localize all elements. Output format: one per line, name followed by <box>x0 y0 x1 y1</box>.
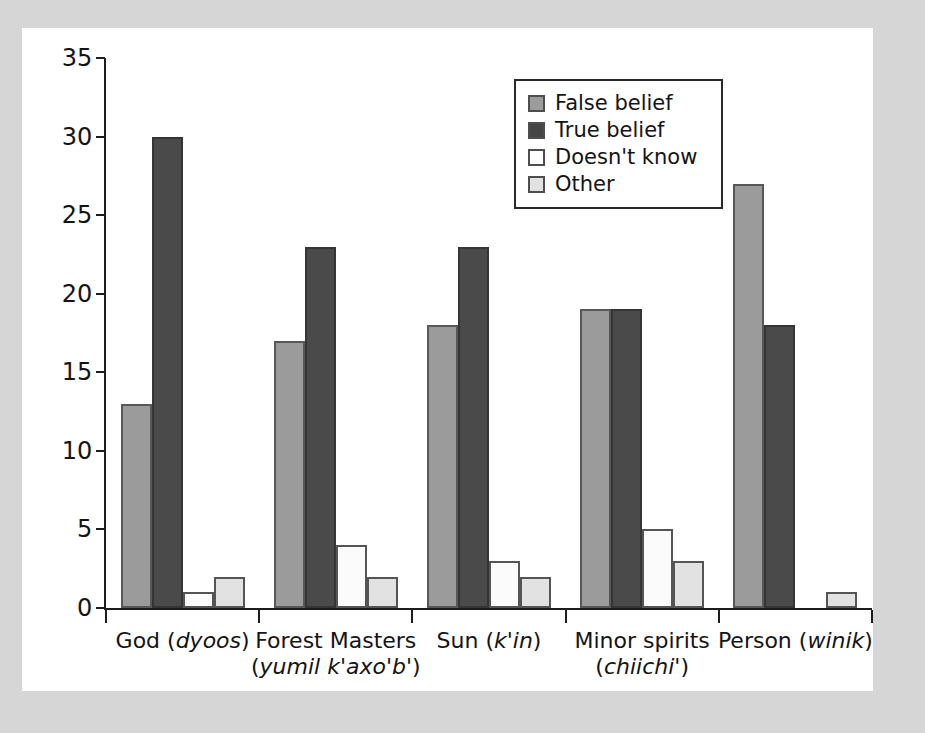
y-tick-label: 10 <box>40 439 92 463</box>
figure-frame: 05101520253035 God (dyoos)Forest Masters… <box>0 0 925 733</box>
category-label-native: chiichi' <box>604 654 680 679</box>
bar-other-1 <box>367 577 398 608</box>
bar-dk-2 <box>489 561 520 608</box>
bar-other-3 <box>673 561 704 608</box>
bar-false-3 <box>580 309 611 608</box>
x-tick-mark <box>871 610 873 623</box>
bar-dk-0 <box>183 592 214 608</box>
y-tick-mark <box>96 136 105 138</box>
y-tick-label: 25 <box>40 203 92 227</box>
bar-true-0 <box>152 137 183 608</box>
legend-label: True belief <box>555 120 665 141</box>
legend-swatch-icon <box>528 149 545 166</box>
bar-other-4 <box>826 592 857 608</box>
y-tick-mark <box>96 57 105 59</box>
bar-dk-1 <box>336 545 367 608</box>
category-label-native: k'in <box>494 628 533 653</box>
chart-legend: False beliefTrue beliefDoesn't knowOther <box>514 79 723 209</box>
y-tick-label: 20 <box>40 282 92 306</box>
category-label-line2: (yumil k'axo'b') <box>236 654 435 680</box>
y-tick-label: 35 <box>40 46 92 70</box>
x-tick-mark <box>105 610 107 623</box>
y-tick-mark <box>96 450 105 452</box>
y-tick-label: 0 <box>40 596 92 620</box>
category-label-native: dyoos <box>176 628 241 653</box>
legend-item-true[interactable]: True belief <box>528 117 709 144</box>
y-tick-mark <box>96 607 105 609</box>
legend-swatch-icon <box>528 95 545 112</box>
bar-false-2 <box>427 325 458 608</box>
legend-item-dk[interactable]: Doesn't know <box>528 144 709 171</box>
bar-other-0 <box>214 577 245 608</box>
y-tick-mark <box>96 214 105 216</box>
y-tick-mark <box>96 528 105 530</box>
x-tick-mark <box>258 610 260 623</box>
legend-label: False belief <box>555 93 673 114</box>
bar-true-1 <box>305 247 336 608</box>
y-tick-mark <box>96 293 105 295</box>
category-label-line1: Person (winik) <box>696 628 895 654</box>
bar-true-3 <box>611 309 642 608</box>
x-tick-mark <box>565 610 567 623</box>
legend-label: Other <box>555 174 615 195</box>
category-label-native: winik <box>807 628 864 653</box>
y-tick-label: 15 <box>40 360 92 384</box>
category-label-4: Person (winik) <box>696 628 895 654</box>
legend-swatch-icon <box>528 122 545 139</box>
y-tick-label: 30 <box>40 125 92 149</box>
legend-label: Doesn't know <box>555 147 697 168</box>
legend-item-false[interactable]: False belief <box>528 90 709 117</box>
grouped-bar-chart: 05101520253035 God (dyoos)Forest Masters… <box>0 0 925 733</box>
legend-item-other[interactable]: Other <box>528 171 709 198</box>
y-tick-mark <box>96 371 105 373</box>
bar-true-2 <box>458 247 489 608</box>
bar-dk-3 <box>642 529 673 608</box>
bar-other-2 <box>520 577 551 608</box>
bar-true-4 <box>764 325 795 608</box>
y-tick-label: 5 <box>40 517 92 541</box>
x-tick-mark <box>411 610 413 623</box>
x-axis-line <box>104 608 872 610</box>
x-tick-mark <box>718 610 720 623</box>
y-axis-line <box>104 58 106 610</box>
category-label-line2: (chiichi') <box>543 654 742 680</box>
legend-swatch-icon <box>528 176 545 193</box>
bar-false-0 <box>121 404 152 608</box>
bar-false-4 <box>733 184 764 608</box>
category-label-native: yumil k'axo'b' <box>260 654 412 679</box>
bar-false-1 <box>274 341 305 608</box>
